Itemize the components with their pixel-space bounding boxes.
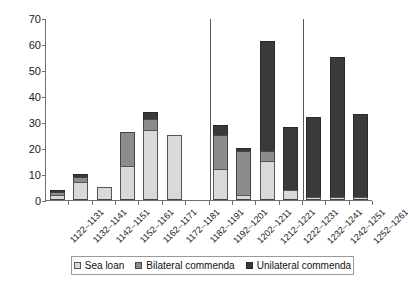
legend-label: Unilateral commenda xyxy=(257,260,352,271)
bar-segment-bilateral-commenda xyxy=(236,151,251,195)
x-axis-label-slot: 1222–1231 xyxy=(279,205,302,253)
bar-segment-sea-loan xyxy=(236,195,251,200)
stacked-bar[interactable] xyxy=(73,174,88,200)
bar-segment-unilateral-commenda xyxy=(260,41,275,150)
y-axis-tick-label: 20 xyxy=(29,143,41,155)
bar-segment-sea-loan xyxy=(353,197,368,200)
stacked-bar[interactable] xyxy=(353,114,368,200)
x-axis-label-slot: 1192–1201 xyxy=(209,205,232,253)
bar-slot xyxy=(139,19,162,200)
bar-segment-unilateral-commenda xyxy=(353,114,368,197)
stacked-bar[interactable] xyxy=(260,41,275,200)
bar-segment-bilateral-commenda xyxy=(120,132,135,166)
chart-legend: Sea loanBilateral commendaUnilateral com… xyxy=(71,256,354,275)
bar-slot xyxy=(93,19,116,200)
bar-chart: 010203040506070 1122–11311132–11411142–1… xyxy=(0,0,408,291)
bar-slot xyxy=(302,19,325,200)
bar-slot xyxy=(69,19,92,200)
bar-segment-sea-loan xyxy=(306,197,321,200)
bar-slot xyxy=(209,19,232,200)
stacked-bar[interactable] xyxy=(167,135,182,200)
bar-segment-unilateral-commenda xyxy=(143,112,158,120)
bar-slot xyxy=(325,19,348,200)
bar-segment-sea-loan xyxy=(213,169,228,200)
x-axis-label-slot: 1242–1251 xyxy=(325,205,348,253)
x-axis-label-slot: 1132–1141 xyxy=(68,205,91,253)
stacked-bar[interactable] xyxy=(97,187,112,200)
x-axis-label-slot: 1212–1221 xyxy=(255,205,278,253)
x-axis-label-slot: 1162–1171 xyxy=(138,205,161,253)
y-axis-tick-label: 0 xyxy=(35,195,41,207)
stacked-bar[interactable] xyxy=(306,117,321,200)
bar-segment-unilateral-commenda xyxy=(330,57,345,197)
bar-segment-sea-loan xyxy=(120,166,135,200)
x-axis-label-slot: 1232–1241 xyxy=(302,205,325,253)
stacked-bar[interactable] xyxy=(330,57,345,200)
legend-label: Bilateral commenda xyxy=(146,260,234,271)
bar-segment-sea-loan xyxy=(143,130,158,200)
bar-segment-bilateral-commenda xyxy=(213,135,228,169)
legend-swatch-icon xyxy=(135,262,142,269)
stacked-bar[interactable] xyxy=(236,148,251,200)
bar-segment-sea-loan xyxy=(73,182,88,200)
legend-item-bilateral-commenda[interactable]: Bilateral commenda xyxy=(135,260,234,271)
y-axis-tick-label: 10 xyxy=(29,169,41,181)
x-axis-label-slot: 1182–1191 xyxy=(185,205,208,253)
y-axis-tick-label: 40 xyxy=(29,91,41,103)
bar-slot xyxy=(46,19,69,200)
bar-segment-sea-loan xyxy=(330,197,345,200)
legend-swatch-icon xyxy=(74,262,81,269)
legend-label: Sea loan xyxy=(85,260,124,271)
stacked-bar[interactable] xyxy=(283,127,298,200)
y-axis-tick-label: 70 xyxy=(29,13,41,25)
legend-item-sea-loan[interactable]: Sea loan xyxy=(74,260,124,271)
x-axis-label-slot: 1122–1131 xyxy=(45,205,68,253)
x-axis-label-slot: 1152–1161 xyxy=(115,205,138,253)
stacked-bar[interactable] xyxy=(120,132,135,200)
bar-group xyxy=(46,19,372,200)
bar-segment-unilateral-commenda xyxy=(213,125,228,135)
bar-segment-sea-loan xyxy=(260,161,275,200)
y-axis-tick-label: 50 xyxy=(29,65,41,77)
bar-segment-unilateral-commenda xyxy=(306,117,321,198)
bar-segment-bilateral-commenda xyxy=(260,151,275,161)
bar-slot xyxy=(232,19,255,200)
bar-segment-sea-loan xyxy=(50,195,65,200)
bar-segment-unilateral-commenda xyxy=(283,127,298,189)
bar-slot xyxy=(279,19,302,200)
bar-segment-sea-loan xyxy=(97,187,112,200)
x-axis-label-slot: 1202–1211 xyxy=(232,205,255,253)
stacked-bar[interactable] xyxy=(143,112,158,200)
x-axis-label-slot: 1142–1151 xyxy=(92,205,115,253)
x-axis-labels: 1122–11311132–11411142–11511152–11611162… xyxy=(45,205,372,253)
y-axis-tick-label: 30 xyxy=(29,117,41,129)
x-axis-label-slot: 1172–1181 xyxy=(162,205,185,253)
bar-segment-sea-loan xyxy=(167,135,182,200)
plot-area: 010203040506070 xyxy=(45,19,372,201)
legend-swatch-icon xyxy=(246,262,253,269)
bar-segment-sea-loan xyxy=(283,190,298,200)
bar-segment-bilateral-commenda xyxy=(143,119,158,129)
legend-item-unilateral-commenda[interactable]: Unilateral commenda xyxy=(246,260,352,271)
bar-slot xyxy=(116,19,139,200)
bar-slot xyxy=(256,19,279,200)
bar-slot xyxy=(162,19,185,200)
bar-slot xyxy=(349,19,372,200)
stacked-bar[interactable] xyxy=(50,190,65,200)
x-axis-label-slot: 1252–1261 xyxy=(349,205,372,253)
bar-slot xyxy=(186,19,209,200)
stacked-bar[interactable] xyxy=(213,125,228,200)
y-axis-tick-label: 60 xyxy=(29,39,41,51)
